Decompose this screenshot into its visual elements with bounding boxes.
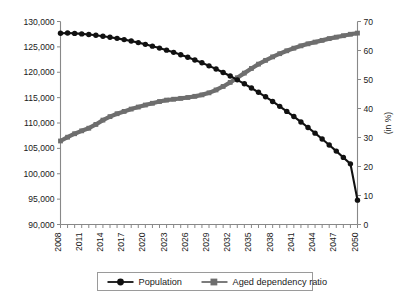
data-point-population xyxy=(263,94,268,99)
data-point-population xyxy=(327,142,332,147)
data-point-aged-dependency-ratio xyxy=(108,114,113,119)
data-point-population xyxy=(228,73,233,78)
data-point-population xyxy=(334,148,339,153)
legend-label-population: Population xyxy=(139,277,182,287)
data-point-aged-dependency-ratio xyxy=(334,35,339,40)
x-axis-tick-label: 2023 xyxy=(159,232,169,251)
data-point-aged-dependency-ratio xyxy=(228,80,233,85)
data-point-aged-dependency-ratio xyxy=(221,84,226,89)
x-axis-tick-label: 2014 xyxy=(95,232,105,251)
data-point-aged-dependency-ratio xyxy=(242,71,247,76)
data-point-population xyxy=(298,119,303,124)
data-point-aged-dependency-ratio xyxy=(207,90,212,95)
data-point-aged-dependency-ratio xyxy=(129,107,134,112)
data-point-aged-dependency-ratio xyxy=(150,101,155,106)
right-axis-tick-label: 0 xyxy=(364,220,369,230)
data-point-population xyxy=(150,43,155,48)
data-point-aged-dependency-ratio xyxy=(313,40,318,45)
data-point-population xyxy=(235,77,240,82)
data-point-aged-dependency-ratio xyxy=(101,118,106,123)
data-point-aged-dependency-ratio xyxy=(214,88,219,93)
data-point-population xyxy=(256,90,261,95)
data-point-population xyxy=(291,114,296,119)
chart-container: 90,00095,000100,000105,000110,000115,000… xyxy=(0,0,404,304)
data-point-aged-dependency-ratio xyxy=(178,96,183,101)
data-point-aged-dependency-ratio xyxy=(171,97,176,102)
data-point-population xyxy=(164,47,169,52)
data-point-population xyxy=(341,155,346,160)
data-point-population xyxy=(121,37,126,42)
data-point-population xyxy=(213,66,218,71)
right-axis-tick-label: 60 xyxy=(364,46,374,56)
data-point-aged-dependency-ratio xyxy=(291,46,296,51)
x-axis-tick-label: 2017 xyxy=(116,232,126,251)
data-point-aged-dependency-ratio xyxy=(143,103,148,108)
data-point-population xyxy=(129,38,134,43)
data-point-aged-dependency-ratio xyxy=(263,58,268,63)
left-axis-tick-label: 130,000 xyxy=(23,17,54,27)
data-point-population xyxy=(100,34,105,39)
data-point-population xyxy=(72,31,77,36)
data-point-aged-dependency-ratio xyxy=(164,98,169,103)
data-point-population xyxy=(242,81,247,86)
left-axis-tick-label: 100,000 xyxy=(23,169,54,179)
data-point-population xyxy=(143,42,148,47)
data-point-population xyxy=(220,70,225,75)
left-axis-tick-label: 90,000 xyxy=(28,220,55,230)
data-point-aged-dependency-ratio xyxy=(341,33,346,38)
line-chart: 90,00095,000100,000105,000110,000115,000… xyxy=(0,0,404,304)
data-point-population xyxy=(114,36,119,41)
data-point-aged-dependency-ratio xyxy=(200,92,205,97)
data-point-population xyxy=(249,85,254,90)
x-axis-tick-label: 2041 xyxy=(286,232,296,251)
data-point-population xyxy=(136,40,141,45)
x-axis-tick-label: 2020 xyxy=(137,232,147,251)
data-point-aged-dependency-ratio xyxy=(136,105,141,110)
left-axis-tick-label: 105,000 xyxy=(23,143,54,153)
data-point-aged-dependency-ratio xyxy=(79,128,84,133)
data-point-aged-dependency-ratio xyxy=(270,54,275,59)
data-point-aged-dependency-ratio xyxy=(72,131,77,136)
data-point-population xyxy=(79,31,84,36)
data-point-population xyxy=(355,197,360,202)
data-point-population xyxy=(185,55,190,60)
data-point-aged-dependency-ratio xyxy=(299,43,304,48)
data-point-aged-dependency-ratio xyxy=(192,94,197,99)
left-axis-tick-label: 115,000 xyxy=(24,93,55,103)
data-point-aged-dependency-ratio xyxy=(348,32,353,37)
data-point-population xyxy=(171,50,176,55)
right-axis-tick-label: 20 xyxy=(364,162,374,172)
data-point-population xyxy=(178,52,183,57)
right-axis-tick-label: 30 xyxy=(364,133,374,143)
right-axis-tick-label: 70 xyxy=(364,17,374,27)
data-point-aged-dependency-ratio xyxy=(284,48,289,53)
right-axis-title: (in %) xyxy=(383,112,393,135)
left-axis-tick-label: 110,000 xyxy=(24,118,55,128)
data-point-population xyxy=(270,99,275,104)
x-axis-tick-label: 2029 xyxy=(201,232,211,251)
data-point-population xyxy=(206,63,211,68)
data-point-population xyxy=(86,32,91,37)
x-axis-tick-label: 2011 xyxy=(74,232,84,251)
data-point-population xyxy=(192,57,197,62)
data-point-population xyxy=(284,109,289,114)
data-point-population xyxy=(305,125,310,130)
data-point-population xyxy=(319,136,324,141)
data-point-population xyxy=(65,30,70,35)
data-point-aged-dependency-ratio xyxy=(249,66,254,71)
data-point-population xyxy=(58,31,63,36)
left-axis-tick-label: 95,000 xyxy=(28,194,55,204)
data-point-population xyxy=(348,161,353,166)
right-axis-tick-label: 10 xyxy=(364,191,374,201)
data-point-population xyxy=(157,45,162,50)
right-axis-tick-label: 50 xyxy=(364,75,374,85)
data-point-aged-dependency-ratio xyxy=(65,135,70,140)
data-point-aged-dependency-ratio xyxy=(86,126,91,131)
left-axis-tick-label: 120,000 xyxy=(23,67,54,77)
data-point-population xyxy=(277,104,282,109)
legend-label-aged-dependency-ratio: Aged dependency ratio xyxy=(233,277,328,287)
x-axis-tick-label: 2038 xyxy=(265,232,275,251)
data-point-population xyxy=(312,130,317,135)
data-point-population xyxy=(107,35,112,40)
legend-marker-aged-dependency-ratio xyxy=(211,279,218,286)
